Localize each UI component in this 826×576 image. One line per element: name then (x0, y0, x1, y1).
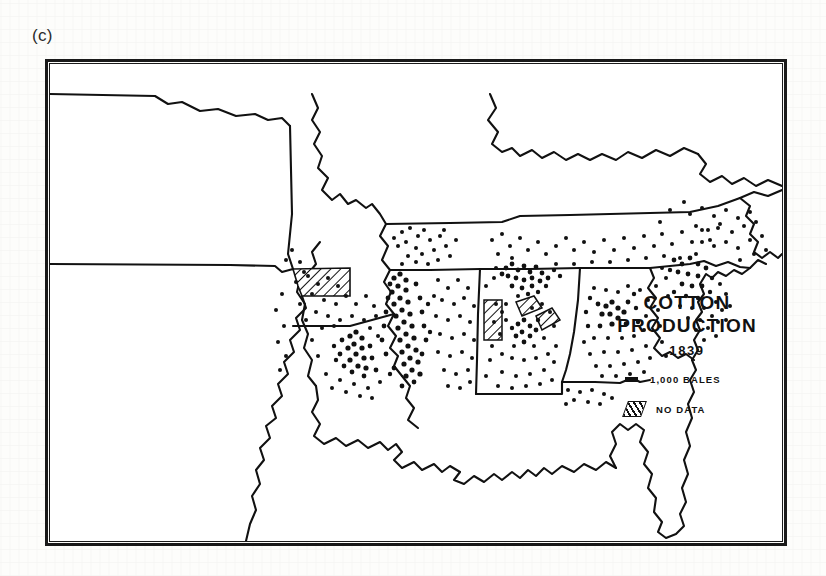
boundary-louisiana-east (402, 376, 418, 428)
legend-title-line1: COTTON (603, 291, 771, 314)
map-legend: COTTON PRODUCTION 1839 1,000 BALES NO DA… (603, 291, 771, 417)
boundary-alabama-florida-north (476, 382, 562, 394)
legend-year: 1839 (603, 343, 771, 358)
dot-cluster-middle-tennessee (490, 226, 720, 266)
figure-label: (c) (32, 26, 53, 46)
boundary-virginia-north (698, 154, 782, 186)
dot-scatter-mississippi (432, 278, 476, 390)
coastline-nc-outer-banks (740, 198, 782, 258)
boundary-mississippi-alabama (476, 269, 480, 394)
dash-symbol-icon (625, 377, 638, 382)
boundary-arkansas-north-west (50, 264, 293, 272)
no-data-arkansas (293, 268, 350, 296)
boundary-missouri-west (288, 126, 293, 269)
legend-label-bales: 1,000 BALES (650, 374, 721, 385)
legend-title-line2: PRODUCTION (603, 314, 771, 337)
no-data-mississippi-small (516, 296, 542, 316)
dot-cluster-red-river-louisiana (332, 329, 379, 378)
boundary-missouri-north (50, 94, 290, 126)
boundary-ohio-river (488, 94, 698, 160)
legend-entry-bales: 1,000 BALES (625, 374, 771, 385)
boundary-arkansas-louisiana (293, 314, 394, 326)
legend-title: COTTON PRODUCTION (603, 291, 771, 337)
boundary-virginia-north-carolina (740, 190, 782, 198)
map-frame: COTTON PRODUCTION 1839 1,000 BALES NO DA… (45, 59, 787, 546)
legend-label-no-data: NO DATA (656, 404, 706, 415)
dot-cluster-tennessee-valley (494, 262, 562, 298)
dot-cluster-west-tennessee (392, 226, 458, 266)
dot-cluster-mississippi-delta (380, 271, 433, 388)
boundary-alabama-georgia (562, 268, 580, 382)
hatch-symbol-icon (622, 401, 647, 417)
legend-entry-no-data: NO DATA (625, 401, 771, 417)
